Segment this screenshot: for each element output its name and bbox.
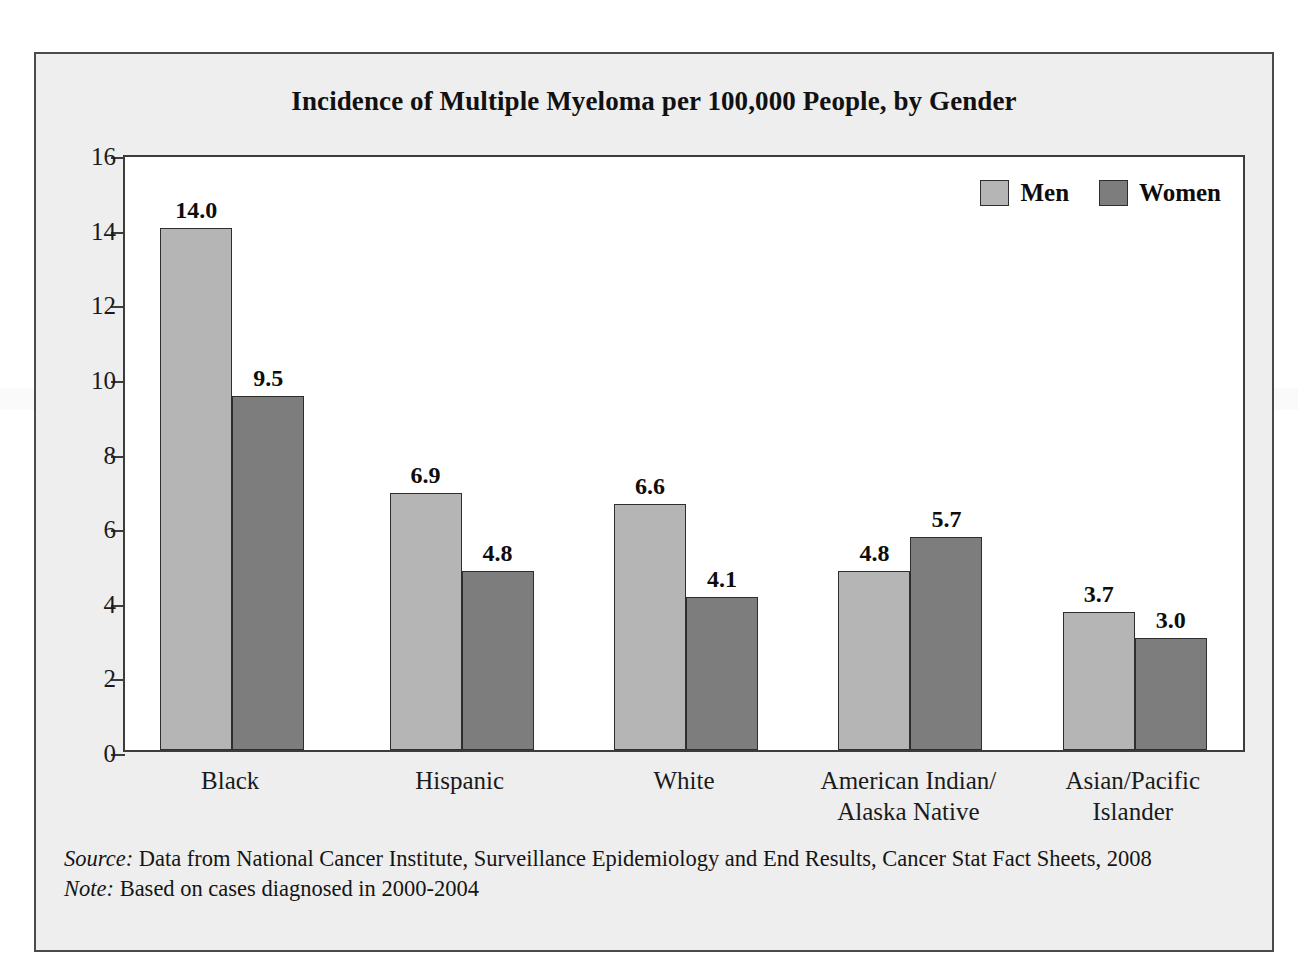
figure-footnotes: Source: Data from National Cancer Instit… bbox=[64, 844, 1152, 904]
x-axis-label-line: Alaska Native bbox=[821, 797, 997, 828]
x-axis-label-line: Hispanic bbox=[415, 766, 504, 797]
bar-value-label: 14.0 bbox=[175, 197, 217, 224]
bar-women-2[interactable] bbox=[686, 597, 758, 750]
x-axis-label-line: Black bbox=[201, 766, 259, 797]
bar-men-1[interactable] bbox=[390, 493, 462, 750]
legend-swatch-women bbox=[1099, 180, 1128, 206]
x-axis-label-3: American Indian/Alaska Native bbox=[821, 766, 997, 827]
bar-men-2[interactable] bbox=[614, 504, 686, 750]
bar-women-1[interactable] bbox=[462, 571, 534, 750]
y-axis-tick-label: 4 bbox=[104, 591, 117, 619]
legend-label-men: Men bbox=[1020, 179, 1069, 207]
bar-women-0[interactable] bbox=[232, 396, 304, 750]
bar-value-label: 4.1 bbox=[707, 566, 737, 593]
y-axis-tick-label: 10 bbox=[91, 367, 116, 395]
y-axis-tick-label: 12 bbox=[91, 292, 116, 320]
chart-legend: Men Women bbox=[980, 179, 1221, 207]
bar-value-label: 3.0 bbox=[1156, 607, 1186, 634]
note-text: Based on cases diagnosed in 2000-2004 bbox=[120, 876, 479, 901]
x-axis-label-2: White bbox=[653, 766, 714, 797]
bar-value-label: 3.7 bbox=[1084, 581, 1114, 608]
bar-value-label: 4.8 bbox=[483, 540, 513, 567]
x-axis-label-line: American Indian/ bbox=[821, 766, 997, 797]
x-axis-label-0: Black bbox=[201, 766, 259, 797]
figure-page: Incidence of Multiple Myeloma per 100,00… bbox=[0, 0, 1298, 968]
bar-value-label: 5.7 bbox=[931, 506, 961, 533]
source-lead: Source: bbox=[64, 846, 133, 871]
bar-value-label: 6.6 bbox=[635, 473, 665, 500]
bar-women-4[interactable] bbox=[1135, 638, 1207, 750]
source-text: Data from National Cancer Institute, Sur… bbox=[139, 846, 1152, 871]
x-axis-label-line: Islander bbox=[1065, 797, 1200, 828]
bar-men-0[interactable] bbox=[160, 228, 232, 750]
bar-value-label: 6.9 bbox=[411, 462, 441, 489]
x-axis-label-1: Hispanic bbox=[415, 766, 504, 797]
note-lead: Note: bbox=[64, 876, 114, 901]
legend-item-men[interactable]: Men bbox=[980, 179, 1069, 207]
bar-men-3[interactable] bbox=[838, 571, 910, 750]
y-axis-tick-label: 8 bbox=[104, 442, 117, 470]
bar-value-label: 4.8 bbox=[859, 540, 889, 567]
legend-item-women[interactable]: Women bbox=[1099, 179, 1221, 207]
y-axis-tick-label: 14 bbox=[91, 218, 116, 246]
x-axis-label-line: Asian/Pacific bbox=[1065, 766, 1200, 797]
legend-label-women: Women bbox=[1139, 179, 1221, 207]
y-axis-tick-label: 0 bbox=[104, 740, 117, 768]
x-axis-label-line: White bbox=[653, 766, 714, 797]
y-axis-tick-label: 2 bbox=[104, 665, 117, 693]
legend-swatch-men bbox=[980, 180, 1009, 206]
figure-frame: Incidence of Multiple Myeloma per 100,00… bbox=[34, 52, 1274, 952]
y-axis-tick-label: 6 bbox=[104, 516, 117, 544]
bar-men-4[interactable] bbox=[1063, 612, 1135, 750]
chart-title: Incidence of Multiple Myeloma per 100,00… bbox=[36, 86, 1272, 117]
bar-women-3[interactable] bbox=[910, 537, 982, 750]
note-line: Note: Based on cases diagnosed in 2000-2… bbox=[64, 874, 1152, 904]
x-axis-label-4: Asian/PacificIslander bbox=[1065, 766, 1200, 827]
source-line: Source: Data from National Cancer Instit… bbox=[64, 844, 1152, 874]
bar-value-label: 9.5 bbox=[253, 365, 283, 392]
y-axis-tick-label: 16 bbox=[91, 143, 116, 171]
plot-area: 0246810121416 14.09.56.94.86.64.14.85.73… bbox=[123, 155, 1245, 752]
